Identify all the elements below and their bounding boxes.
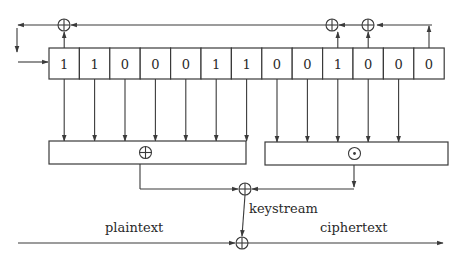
cell-bit: 0: [121, 57, 129, 72]
cell-bit: 1: [334, 57, 342, 72]
register-cell: 0: [171, 48, 201, 79]
and-box: [265, 142, 448, 165]
cell-bit: 0: [425, 57, 433, 72]
xor-icon: [326, 19, 338, 31]
register-cell: 1: [49, 48, 79, 79]
cell-bit: 1: [60, 57, 68, 72]
register-cell: 0: [414, 48, 444, 79]
register-cell: 1: [201, 48, 231, 79]
output-xor-icon: [236, 237, 248, 249]
cell-bit: 0: [273, 57, 281, 72]
and-dot-icon: [349, 148, 361, 160]
register-cell: 1: [323, 48, 353, 79]
cell-bit: 1: [242, 57, 250, 72]
keystream-xor-icon: [239, 183, 251, 195]
xor-icon: [362, 19, 374, 31]
cell-bit: 0: [394, 57, 402, 72]
keystream-arrow: [242, 195, 245, 236]
register-cell: 0: [292, 48, 322, 79]
register-cell: 0: [383, 48, 413, 79]
xor-icon: [58, 19, 70, 31]
register-cell: 1: [231, 48, 261, 79]
shift-register: 1100011001000: [49, 48, 444, 79]
keystream-output: keystream plaintext ciphertext: [18, 195, 443, 249]
cell-bit: 0: [151, 57, 159, 72]
xor-box: [49, 141, 246, 164]
cell-bit: 0: [364, 57, 372, 72]
cell-bit: 1: [90, 57, 98, 72]
stream-cipher-diagram: 1100011001000 keystream plaintext cipher…: [0, 0, 464, 267]
combining-functions: [49, 79, 448, 195]
register-cell: 0: [262, 48, 292, 79]
cell-bit: 0: [182, 57, 190, 72]
ciphertext-label: ciphertext: [320, 220, 388, 235]
xor-icon: [140, 147, 152, 159]
register-cell: 0: [140, 48, 170, 79]
cell-bit: 0: [303, 57, 311, 72]
register-cell: 0: [110, 48, 140, 79]
register-cell: 0: [353, 48, 383, 79]
plaintext-label: plaintext: [105, 220, 164, 235]
keystream-label: keystream: [249, 201, 318, 216]
cell-bit: 1: [212, 57, 220, 72]
register-cell: 1: [79, 48, 109, 79]
